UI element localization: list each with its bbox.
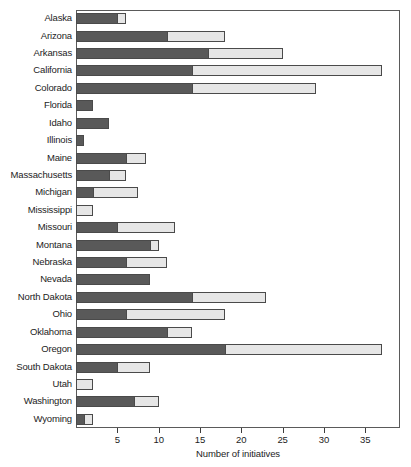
stacked-bar <box>76 205 93 216</box>
bar-segment-light <box>109 170 126 181</box>
bar-segment-light <box>117 222 175 233</box>
stacked-bar <box>76 153 146 164</box>
bar-segment-dark <box>76 65 192 76</box>
bar-row <box>76 10 400 27</box>
bar-segment-dark <box>76 48 208 59</box>
bar-segment-dark <box>76 153 126 164</box>
bar-segment-dark <box>76 187 93 198</box>
bar-row <box>76 219 400 236</box>
bar-segment-light <box>192 83 316 94</box>
bar-segment-dark <box>76 327 167 338</box>
bar-row <box>76 149 400 166</box>
bar-segment-light <box>76 379 93 390</box>
category-label: Nebraska <box>0 257 72 267</box>
stacked-bar <box>76 135 84 146</box>
category-label: Massachusetts <box>0 170 72 180</box>
bar-segment-light <box>134 396 159 407</box>
bar-segment-light <box>84 414 92 425</box>
category-label: Nevada <box>0 274 72 284</box>
stacked-bar <box>76 83 316 94</box>
bar-row <box>76 132 400 149</box>
bar-row <box>76 97 400 114</box>
category-label: Arkansas <box>0 48 72 58</box>
category-label: Colorado <box>0 83 72 93</box>
bar-row <box>76 376 400 393</box>
bar-row <box>76 271 400 288</box>
category-label: Ohio <box>0 309 72 319</box>
category-label: California <box>0 65 72 75</box>
stacked-bar <box>76 187 138 198</box>
bar-segment-dark <box>76 135 84 146</box>
bar-segment-dark <box>76 274 150 285</box>
stacked-bar <box>76 292 266 303</box>
bar-segment-dark <box>76 222 117 233</box>
category-axis-labels: AlaskaArizonaArkansasCaliforniaColoradoF… <box>0 10 72 428</box>
bar-row <box>76 411 400 428</box>
bar-segment-light <box>167 327 192 338</box>
stacked-bar <box>76 100 93 111</box>
bars-layer <box>76 10 400 428</box>
bar-row <box>76 45 400 62</box>
bar-row <box>76 167 400 184</box>
bar-segment-light <box>150 240 158 251</box>
bar-segment-light <box>93 187 138 198</box>
x-axis-tick-label: 35 <box>360 434 370 445</box>
bar-segment-dark <box>76 240 150 251</box>
category-label: Illinois <box>0 135 72 145</box>
x-axis-tick <box>283 428 284 433</box>
stacked-bar <box>76 379 93 390</box>
bar-row <box>76 289 400 306</box>
category-label: Idaho <box>0 118 72 128</box>
bar-segment-dark <box>76 13 117 24</box>
bar-row <box>76 202 400 219</box>
x-axis-tick-label: 25 <box>277 434 287 445</box>
bar-segment-dark <box>76 118 109 129</box>
stacked-bar <box>76 13 126 24</box>
bar-row <box>76 254 400 271</box>
bar-row <box>76 393 400 410</box>
category-label: Missouri <box>0 222 72 232</box>
bar-row <box>76 358 400 375</box>
bar-row <box>76 115 400 132</box>
bar-segment-light <box>117 13 125 24</box>
x-axis-tick <box>117 428 118 433</box>
x-axis-tick-label: 5 <box>115 434 120 445</box>
x-axis-tick <box>159 428 160 433</box>
x-axis-tick <box>365 428 366 433</box>
bar-segment-dark <box>76 292 192 303</box>
bar-segment-light <box>126 309 225 320</box>
x-axis-tick <box>241 428 242 433</box>
bar-row <box>76 80 400 97</box>
stacked-bar <box>76 65 382 76</box>
category-label: Wyoming <box>0 414 72 424</box>
bar-segment-light <box>126 153 147 164</box>
category-label: Arizona <box>0 31 72 41</box>
bar-segment-dark <box>76 309 126 320</box>
stacked-bar <box>76 327 192 338</box>
bar-segment-dark <box>76 257 126 268</box>
bar-segment-dark <box>76 414 84 425</box>
category-label: Mississippi <box>0 205 72 215</box>
category-label: Oregon <box>0 344 72 354</box>
stacked-bar <box>76 362 150 373</box>
bar-segment-light <box>117 362 150 373</box>
bar-row <box>76 184 400 201</box>
bar-segment-dark <box>76 362 117 373</box>
stacked-bar <box>76 170 126 181</box>
bar-segment-light <box>225 344 382 355</box>
bar-row <box>76 27 400 44</box>
bar-row <box>76 62 400 79</box>
bar-row <box>76 324 400 341</box>
bar-segment-light <box>192 65 382 76</box>
bar-segment-dark <box>76 31 167 42</box>
stacked-bar <box>76 257 167 268</box>
x-axis-tick-label: 10 <box>153 434 163 445</box>
category-label: Oklahoma <box>0 327 72 337</box>
category-label: Maine <box>0 153 72 163</box>
stacked-bar <box>76 396 159 407</box>
stacked-bar <box>76 414 93 425</box>
category-label: Montana <box>0 240 72 250</box>
bar-segment-light <box>208 48 282 59</box>
bar-segment-dark <box>76 100 93 111</box>
bar-row <box>76 236 400 253</box>
